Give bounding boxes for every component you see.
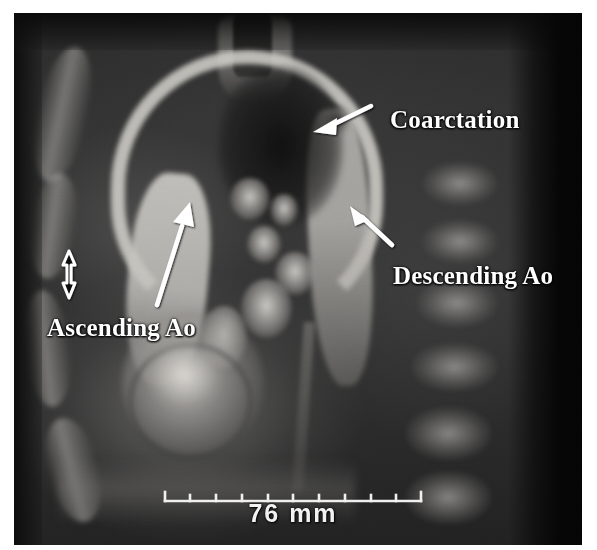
label-ascending-ao: Ascending Ao	[47, 314, 196, 342]
vessel-cross-section	[230, 178, 270, 221]
vessel-cross-section	[270, 194, 298, 226]
ventricle-cavity	[145, 338, 225, 412]
vessel-cross-section	[241, 279, 292, 338]
mri-screenshot: 76 mm Coarctation Descending Ao Ascendin…	[0, 0, 597, 550]
vertebral-body	[423, 220, 497, 263]
vertebral-body	[406, 407, 491, 460]
top-air-margin	[14, 13, 582, 50]
vertebral-body	[412, 343, 497, 391]
vessel-cross-section	[247, 226, 281, 263]
scale-bar-label: 76 mm	[163, 499, 423, 528]
label-coarctation: Coarctation	[390, 106, 520, 134]
label-descending-ao: Descending Ao	[393, 262, 553, 290]
vertebral-body	[423, 162, 497, 205]
mri-image-frame: 76 mm Coarctation Descending Ao Ascendin…	[14, 13, 582, 545]
left-air-margin	[14, 13, 42, 545]
